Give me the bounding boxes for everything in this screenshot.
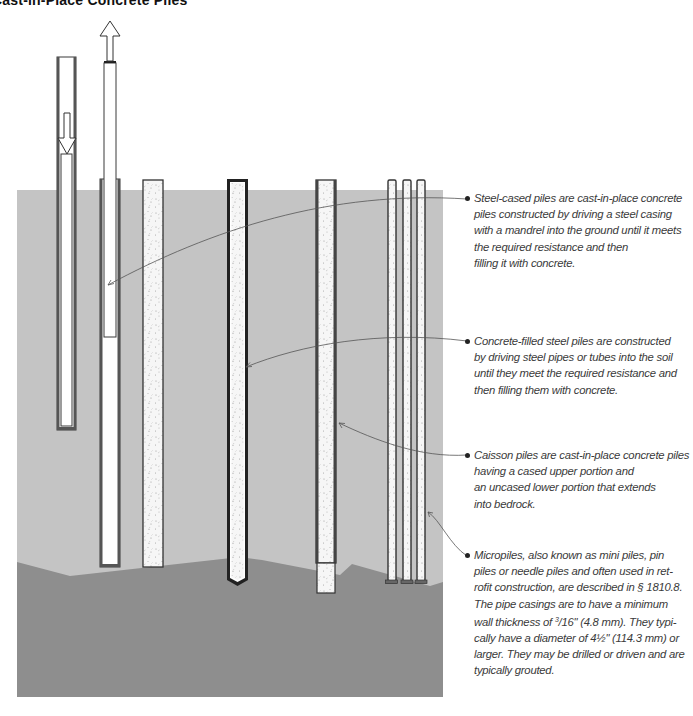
bullet-icon [465, 196, 470, 201]
bullet-icon [465, 453, 470, 458]
annotation-line: wall thickness of 3/16" (4.8 mm). They t… [474, 612, 692, 630]
fraction-denominator: /16" [559, 616, 578, 628]
pile-caisson [316, 180, 336, 593]
bullet-icon [465, 339, 470, 344]
pile-mandrel-withdrawn [100, 21, 120, 567]
annotation-concrete-filled: Concrete-filled steel piles are construc… [474, 333, 692, 398]
pile-concrete-filled-steel [227, 179, 248, 586]
annotation-line: typically grouted. [474, 662, 692, 678]
text-segment: (4.8 mm). They typi- [577, 616, 676, 628]
annotation-caisson: Caisson piles are cast-in-place concrete… [474, 447, 692, 512]
annotation-line: The pipe casings are to have a minimum [474, 596, 692, 612]
annotation-line: Micropiles, also known as mini piles, pi… [474, 547, 692, 563]
annotation-line: rofit construction, are described in § 1… [474, 579, 692, 595]
annotation-line: cally have a diameter of 4½" (114.3 mm) … [474, 630, 692, 646]
annotation-line: larger. They may be drilled or driven an… [474, 646, 692, 662]
pile-mandrel-driving [57, 57, 76, 430]
annotation-steel-cased: Steel-cased piles are cast-in-place conc… [474, 190, 692, 271]
up-arrow-icon [100, 21, 120, 61]
annotation-text: Steel-cased piles are cast-in-place conc… [474, 190, 692, 271]
bullet-icon [465, 553, 470, 558]
text-segment: wall thickness of [474, 616, 555, 628]
pile-steel-cased-filled [143, 180, 163, 567]
annotation-micropiles: Micropiles, also known as mini piles, pi… [474, 547, 692, 679]
pile-micropiles [386, 180, 428, 584]
annotation-line: piles or needle piles and often used in … [474, 563, 692, 579]
annotation-text: Concrete-filled steel piles are construc… [474, 333, 692, 398]
annotation-text: Caisson piles are cast-in-place concrete… [474, 447, 692, 512]
